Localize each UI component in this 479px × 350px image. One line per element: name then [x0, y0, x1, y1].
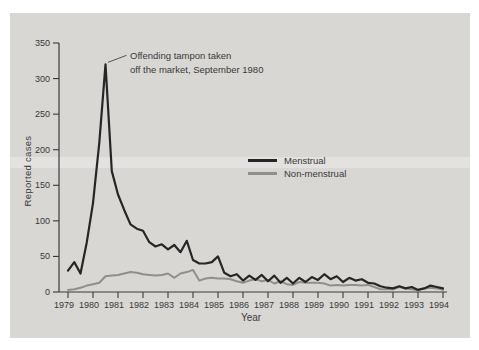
annotation-line-2: off the market, September 1980 — [130, 63, 350, 77]
x-tick-label: 1987 — [254, 300, 274, 310]
annotation-offending-tampon: Offending tampon taken off the market, S… — [130, 49, 350, 76]
x-tick-label: 1984 — [179, 300, 199, 310]
y-tick-label: 0 — [45, 287, 50, 297]
x-tick-label: 1993 — [404, 300, 424, 310]
legend-item-menstrual: Menstrual — [248, 154, 418, 167]
y-tick-label: 150 — [35, 180, 50, 190]
y-tick-label: 250 — [35, 109, 50, 119]
x-tick-label: 1985 — [204, 300, 224, 310]
y-axis-title: Reported cases — [22, 96, 36, 246]
annotation-line-1: Offending tampon taken — [130, 49, 350, 63]
y-tick-label: 100 — [35, 216, 50, 226]
x-tick-label: 1994 — [429, 300, 449, 310]
x-tick-label: 1982 — [129, 300, 149, 310]
x-axis-title: Year — [59, 312, 443, 323]
menstrual-line-swatch — [248, 159, 277, 161]
x-tick-label: 1979 — [54, 300, 74, 310]
legend-item-non-menstrual: Non-menstrual — [248, 167, 418, 180]
x-tick-label: 1981 — [104, 300, 124, 310]
x-tick-label: 1988 — [279, 300, 299, 310]
y-tick-label: 350 — [35, 38, 50, 48]
y-tick-label: 300 — [35, 74, 50, 84]
figure-panel: 0501001502002503003501979198019811982198… — [10, 13, 470, 338]
x-tick-label: 1992 — [379, 300, 399, 310]
y-tick-label: 200 — [35, 145, 50, 155]
x-tick-label: 1991 — [354, 300, 374, 310]
annotation-leader-line — [108, 55, 127, 62]
x-tick-label: 1990 — [329, 300, 349, 310]
y-tick-label: 50 — [40, 251, 50, 261]
x-tick-label: 1989 — [304, 300, 324, 310]
x-tick-label: 1980 — [79, 300, 99, 310]
non-menstrual-line-swatch — [248, 172, 277, 174]
x-tick-label: 1983 — [154, 300, 174, 310]
legend-label-menstrual: Menstrual — [284, 155, 326, 166]
legend: Menstrual Non-menstrual — [248, 154, 418, 180]
x-tick-label: 1986 — [229, 300, 249, 310]
legend-label-non-menstrual: Non-menstrual — [284, 168, 346, 179]
